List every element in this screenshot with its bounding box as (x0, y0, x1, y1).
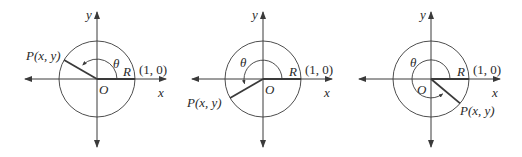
angle-label: θ (240, 56, 246, 69)
origin-label: O (265, 83, 274, 96)
unit-circle-diagram (334, 0, 522, 157)
unit-circle-diagram (166, 0, 340, 157)
x-axis-label: x (158, 86, 164, 99)
radius-label: R (457, 65, 465, 78)
angle-theta-arc (83, 59, 117, 79)
x-axis-label: x (492, 86, 498, 99)
angle-label: θ (410, 56, 416, 69)
unit-point-label: (1, 0) (473, 63, 501, 76)
unit-point-label: (1, 0) (305, 63, 333, 76)
unit-circle-figure-quadrant-4: y x O θ R (1, 0) P(x, y) (334, 0, 508, 157)
y-axis-label: y (252, 8, 258, 21)
point-P-label: P(x, y) (187, 96, 222, 109)
radius-label: R (123, 65, 131, 78)
radius-label: R (289, 65, 297, 78)
unit-point-label: (1, 0) (139, 63, 167, 76)
unit-circle-diagram (0, 0, 174, 157)
unit-circle-figure-quadrant-2: y x O θ R (1, 0) P(x, y) (0, 0, 174, 157)
angle-label: θ (113, 57, 119, 70)
point-P-label: P(x, y) (26, 49, 61, 62)
x-axis-label: x (324, 86, 330, 99)
y-axis-label: y (420, 8, 426, 21)
terminal-side (64, 60, 97, 79)
origin-label: O (417, 83, 426, 96)
origin-label: O (99, 83, 108, 96)
terminal-side (230, 79, 263, 98)
unit-circle-figure-quadrant-3: y x O θ R (1, 0) P(x, y) (166, 0, 340, 157)
y-axis-label: y (86, 8, 92, 21)
point-P-label: P(x, y) (460, 104, 495, 117)
terminal-side (431, 79, 460, 103)
